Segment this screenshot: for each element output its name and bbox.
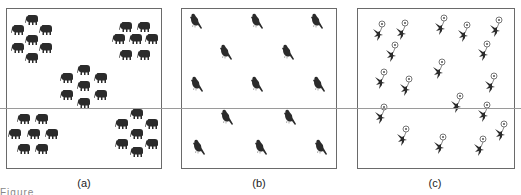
- flower-icon: [434, 14, 450, 36]
- flower-icon: [399, 75, 415, 97]
- panel-c-label: (c): [415, 177, 455, 189]
- elephant-icon: [145, 138, 159, 150]
- flower-icon: [395, 19, 411, 41]
- elephant-icon: [25, 14, 39, 26]
- elephant-icon: [60, 89, 74, 101]
- flower-icon: [396, 125, 412, 147]
- elephant-icon: [39, 42, 53, 54]
- bird-icon: [190, 76, 204, 96]
- flower-icon: [433, 133, 449, 155]
- flower-icon: [489, 16, 505, 38]
- flower-icon: [457, 21, 473, 43]
- elephant-icon: [130, 128, 144, 140]
- elephant-icon: [17, 113, 31, 125]
- elephant-icon: [130, 108, 144, 120]
- elephant-icon: [77, 80, 91, 92]
- elephant-icon: [39, 24, 53, 36]
- panel-a-label: (a): [64, 177, 104, 189]
- elephant-icon: [119, 49, 133, 61]
- panel-b-label: (b): [239, 177, 279, 189]
- elephant-icon: [94, 89, 108, 101]
- figure-caption-fragment: Figure: [0, 187, 34, 195]
- elephant-icon: [119, 21, 133, 33]
- elephant-icon: [45, 128, 59, 140]
- elephant-icon: [27, 128, 41, 140]
- bird-icon: [250, 13, 264, 33]
- flower-icon: [473, 135, 489, 157]
- bird-icon: [250, 76, 264, 96]
- flower-icon: [494, 120, 510, 142]
- flower-icon: [374, 68, 390, 90]
- elephant-icon: [35, 143, 49, 155]
- bird-icon: [283, 109, 297, 129]
- elephant-icon: [25, 34, 39, 46]
- elephant-icon: [137, 49, 151, 61]
- elephant-icon: [11, 24, 25, 36]
- elephant-icon: [94, 72, 108, 84]
- elephant-icon: [145, 33, 159, 45]
- elephant-icon: [17, 143, 31, 155]
- elephant-icon: [115, 118, 129, 130]
- bird-icon: [314, 139, 328, 159]
- elephant-icon: [11, 42, 25, 54]
- bird-icon: [281, 44, 295, 64]
- bird-icon: [219, 44, 233, 64]
- flower-icon: [432, 58, 448, 80]
- elephant-icon: [137, 21, 151, 33]
- bird-icon: [189, 13, 203, 33]
- bird-icon: [310, 13, 324, 33]
- flower-icon: [385, 41, 401, 63]
- elephant-icon: [60, 72, 74, 84]
- elephant-icon: [115, 138, 129, 150]
- elephant-icon: [112, 33, 126, 45]
- scan-line: [0, 108, 521, 109]
- elephant-icon: [25, 52, 39, 64]
- elephant-icon: [129, 33, 143, 45]
- bird-icon: [220, 109, 234, 129]
- flower-icon: [374, 103, 390, 125]
- elephant-icon: [130, 146, 144, 158]
- bird-icon: [312, 76, 326, 96]
- flower-icon: [450, 92, 466, 114]
- flower-icon: [477, 101, 493, 123]
- elephant-icon: [8, 128, 22, 140]
- bird-icon: [254, 139, 268, 159]
- flower-icon: [484, 72, 500, 94]
- flower-icon: [372, 20, 388, 42]
- elephant-icon: [77, 64, 91, 76]
- bird-icon: [192, 139, 206, 159]
- elephant-icon: [35, 113, 49, 125]
- elephant-icon: [145, 118, 159, 130]
- flower-icon: [477, 40, 493, 62]
